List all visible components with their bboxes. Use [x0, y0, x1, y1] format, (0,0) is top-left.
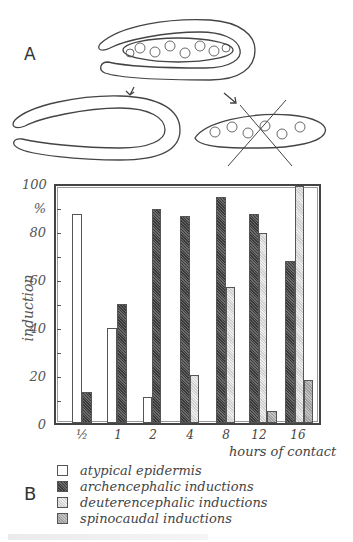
bar-archencephalic-2 — [152, 209, 161, 423]
cropped-caption — [8, 534, 208, 540]
ytick-percent: % — [22, 201, 46, 216]
xtick-12: 12 — [244, 428, 274, 442]
bar-archencephalic-1 — [117, 304, 127, 423]
ytick-mark — [57, 401, 61, 402]
bar-atypical-epidermis-1 — [107, 328, 117, 423]
ytick-100: 100 — [22, 177, 46, 192]
swatch-light-icon — [57, 497, 68, 508]
xtick-8: 8 — [211, 428, 241, 442]
x-axis-title: hours of contact — [229, 444, 336, 459]
xtick-half: ½ — [67, 428, 97, 442]
ytick-mark — [57, 329, 61, 330]
bar-archencephalic-16 — [285, 261, 295, 423]
legend-item-deuterencephalic: deuterencephalic inductions — [57, 494, 268, 510]
legend-item-atypical-epidermis: atypical epidermis — [57, 462, 202, 478]
ytick-80: 80 — [22, 225, 46, 240]
bar-spinocaudal-12 — [267, 411, 277, 423]
ytick-mark — [57, 377, 61, 378]
y-axis-title: induction — [20, 268, 36, 348]
ytick-mark — [57, 257, 61, 258]
swatch-white-icon — [57, 465, 68, 476]
bar-deuterencephalic-4 — [190, 375, 199, 423]
ytick-mark — [57, 281, 61, 282]
legend-label: archencephalic inductions — [80, 479, 254, 494]
legend-label: spinocaudal inductions — [80, 511, 232, 526]
bar-deuterencephalic-16 — [295, 186, 304, 423]
legend-item-spinocaudal: spinocaudal inductions — [57, 510, 232, 526]
xtick-16: 16 — [283, 428, 313, 442]
bar-archencephalic-8 — [216, 197, 226, 423]
ytick-mark — [57, 233, 61, 234]
legend-item-archencephalic: archencephalic inductions — [57, 478, 254, 494]
xtick-1: 1 — [103, 428, 133, 442]
legend-label: atypical epidermis — [80, 463, 202, 478]
bar-archencephalic-half — [82, 392, 92, 423]
bar-archencephalic-4 — [180, 216, 190, 423]
legend-label: deuterencephalic inductions — [80, 495, 268, 510]
bar-deuterencephalic-12 — [259, 233, 267, 423]
swatch-mid-icon — [57, 513, 68, 524]
swatch-dark-icon — [57, 481, 68, 492]
ytick-mark — [57, 353, 61, 354]
bar-atypical-epidermis-half — [72, 214, 82, 423]
bar-spinocaudal-16 — [304, 380, 313, 423]
ytick-0: 0 — [22, 417, 46, 432]
ytick-mark — [57, 209, 61, 210]
xtick-2: 2 — [138, 428, 168, 442]
panel-a-illustration: A — [0, 0, 353, 170]
bar-deuterencephalic-8 — [226, 287, 235, 423]
bar-atypical-epidermis-2 — [143, 397, 152, 423]
ytick-mark — [57, 305, 61, 306]
ytick-20: 20 — [22, 369, 46, 384]
cell-layer-drawing — [0, 0, 353, 170]
panel-b-label: B — [24, 483, 36, 504]
bar-archencephalic-12 — [249, 214, 259, 423]
xtick-4: 4 — [175, 428, 205, 442]
